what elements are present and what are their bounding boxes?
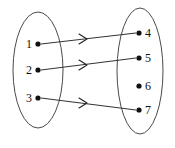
mapping-arrows: [41, 33, 136, 110]
codomain-ellipse: [117, 8, 163, 134]
domain-nodes: 1 2 3: [26, 37, 41, 105]
arrow-line-2-to-5: [41, 58, 136, 70]
arrow-line-3-to-7: [41, 98, 136, 110]
node-dot-7: [136, 107, 141, 112]
node-label-2: 2: [26, 63, 32, 77]
arrow-line-1-to-4: [41, 33, 136, 44]
node-dot-2: [35, 67, 40, 72]
mapping-diagram: 1 2 3 4 5 6 7: [0, 0, 175, 148]
node-label-1: 1: [26, 37, 32, 51]
node-label-3: 3: [26, 91, 32, 105]
node-dot-4: [136, 30, 141, 35]
node-label-7: 7: [145, 103, 151, 117]
node-label-4: 4: [145, 26, 151, 40]
codomain-nodes: 4 5 6 7: [136, 26, 151, 117]
node-dot-1: [35, 41, 40, 46]
node-label-5: 5: [145, 51, 151, 65]
node-dot-5: [136, 55, 141, 60]
diagram-canvas: 1 2 3 4 5 6 7: [0, 0, 175, 148]
node-dot-6: [136, 83, 141, 88]
node-label-6: 6: [145, 79, 151, 93]
node-dot-3: [35, 95, 40, 100]
